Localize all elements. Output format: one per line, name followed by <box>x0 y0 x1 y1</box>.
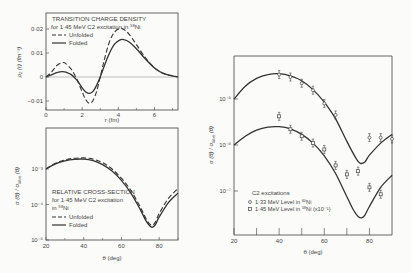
y-tick-label: 10⁻³ <box>32 166 43 172</box>
x-axis-label: θ (deg) <box>102 255 121 261</box>
axis-ticks: 02460·020·010−0·01 <box>27 26 172 118</box>
data-point <box>334 113 337 116</box>
y-tick-label: 10⁻⁴ <box>31 202 43 208</box>
axis-ticks: 2040608010⁻⁵10⁻⁶10⁻⁷ <box>219 96 373 244</box>
data-point <box>323 102 326 105</box>
data-point <box>278 115 281 118</box>
data-point <box>323 148 326 151</box>
x-tick-label: 6 <box>153 112 157 118</box>
legend-58ni: 1·45 MeV Level in 58Ni (x10⁻¹) <box>255 205 331 213</box>
folded-curve <box>46 39 178 93</box>
data-point <box>289 128 292 131</box>
data-point <box>379 136 382 139</box>
legend-folded: Folded <box>69 222 87 228</box>
x-tick-label: 60 <box>118 243 125 249</box>
c2-excitations-plot: 2040608010⁻⁵10⁻⁶10⁻⁷ C2 excitations 1·33… <box>208 56 394 255</box>
x-tick-label: 40 <box>80 243 87 249</box>
y-tick-label: 10⁻⁶ <box>219 142 231 148</box>
y-tick-label: 0·02 <box>31 26 44 32</box>
figure: 02460·020·010−0·01 TRANSITION CHARGE DEN… <box>0 0 411 273</box>
x-tick-label: 20 <box>231 238 238 244</box>
y-axis-label: ρ₂ (r) (fm⁻³) <box>16 47 22 79</box>
data-point <box>334 164 337 167</box>
data-point <box>368 136 371 139</box>
y-axis-label: σ (θ) / σMott (θ) <box>14 167 22 205</box>
x-axis-label: θ (deg) <box>303 249 322 255</box>
data-point <box>278 73 281 76</box>
data-point <box>312 142 315 145</box>
panel-title: TRANSITION CHARGE DENSITY <box>52 15 146 22</box>
data-point <box>289 76 292 79</box>
y-tick-label: 0·01 <box>31 50 44 56</box>
x-axis-label: r (fm) <box>105 117 119 123</box>
x-tick-label: 0 <box>44 112 48 118</box>
unfolded-curve <box>46 28 178 103</box>
x-tick-label: 80 <box>156 243 163 249</box>
x-tick-label: 2 <box>80 112 84 118</box>
y-tick-label: 10⁻⁵ <box>31 237 43 243</box>
x-tick-label: 40 <box>276 238 283 244</box>
data-point <box>345 173 348 176</box>
panel-title: RELATIVE CROSS-SECTION <box>52 188 135 195</box>
charge-density-plot: 02460·020·010−0·01 TRANSITION CHARGE DEN… <box>16 13 178 123</box>
data-point <box>391 138 394 141</box>
circle-marker-icon <box>249 201 252 204</box>
square-marker-icon <box>249 208 252 211</box>
x-tick-label: 20 <box>43 243 50 249</box>
legend-folded: Folded <box>69 40 87 46</box>
data-point <box>300 82 303 85</box>
relative-cross-section-plot: 2040608010⁻³10⁻⁴10⁻⁵ RELATIVE CROSS-SECT… <box>14 128 178 261</box>
legend-title: C2 excitations <box>252 190 290 196</box>
data-point <box>312 89 315 92</box>
panel-subtitle: for 1·45 MeV C2 excitation in 58Ni <box>51 23 140 31</box>
data-point <box>379 193 382 196</box>
y-tick-label: 10⁻⁷ <box>219 188 231 194</box>
y-tick-label: 0 <box>40 74 44 80</box>
data-point <box>300 135 303 138</box>
legend-unfolded: Unfolded <box>69 32 93 38</box>
y-tick-label: 10⁻⁵ <box>219 96 231 102</box>
x-tick-label: 60 <box>321 238 328 244</box>
legend-unfolded: Unfolded <box>69 214 93 220</box>
panel-subtitle-2: in 58Ni <box>52 204 69 212</box>
plot-frame <box>46 128 178 240</box>
y-axis-label: σ (θ) / σMott (θ) <box>208 126 216 164</box>
data-point <box>357 170 360 173</box>
data-points <box>278 71 394 199</box>
y-tick-label: −0·01 <box>27 98 43 104</box>
x-tick-label: 80 <box>366 238 373 244</box>
data-point <box>368 186 371 189</box>
panel-subtitle: for 1·45 MeV C2 excitation <box>52 197 123 203</box>
